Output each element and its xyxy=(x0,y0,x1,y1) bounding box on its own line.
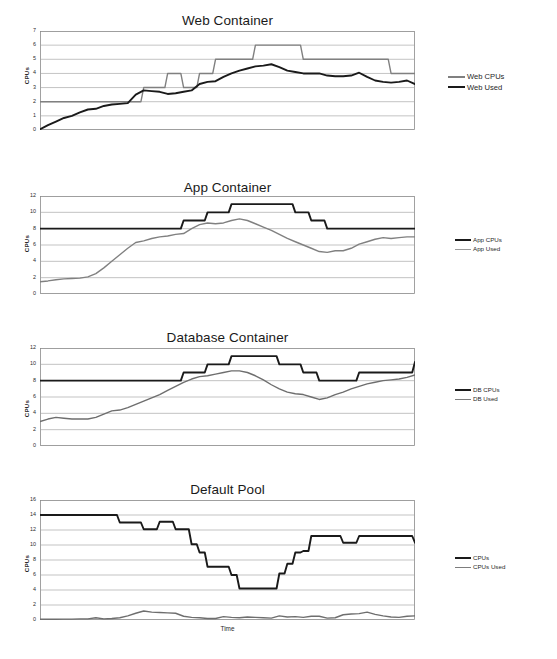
y-tick-label: 2 xyxy=(14,275,36,280)
plot-area-database-container xyxy=(40,348,415,446)
plot-area-app-container xyxy=(40,196,415,294)
y-tick-label: 10 xyxy=(14,209,36,214)
y-tick-label: 0 xyxy=(14,127,36,132)
plot-svg-web-container xyxy=(40,31,415,130)
legend-database-container: DB CPUs DB Used xyxy=(455,387,499,405)
chart-title-web-container: Web Container xyxy=(40,13,415,28)
y-tick-label: 4 xyxy=(14,587,36,592)
y-tick-label: 8 xyxy=(14,378,36,383)
y-tick-label: 12 xyxy=(14,345,36,350)
y-tick-label: 10 xyxy=(14,361,36,366)
chart-panel-web-container: Web Container CPUs 01234567 Web CPUs Web… xyxy=(0,0,557,165)
plot-frame xyxy=(41,32,415,130)
y-tick-label: 5 xyxy=(14,56,36,61)
y-tick-label: 1 xyxy=(14,113,36,118)
legend-swatch-db-used xyxy=(455,399,471,400)
legend-default-pool: CPUs CPUs Used xyxy=(455,555,505,573)
y-tick-label: 2 xyxy=(14,99,36,104)
legend-swatch-web-used xyxy=(448,86,465,88)
legend-swatch-app-used xyxy=(455,249,471,250)
y-tick-label: 4 xyxy=(14,410,36,415)
legend-item-app-cpus: App CPUs xyxy=(455,237,502,243)
y-tick-label: 6 xyxy=(14,242,36,247)
y-tick-label: 0 xyxy=(14,291,36,296)
legend-swatch-app-cpus xyxy=(455,239,471,241)
y-tick-label: 0 xyxy=(14,617,36,622)
y-tick-label: 4 xyxy=(14,70,36,75)
legend-item-web-used: Web Used xyxy=(448,84,504,92)
y-tick-label: 8 xyxy=(14,226,36,231)
legend-item-db-used: DB Used xyxy=(455,396,499,402)
legend-label-web-used: Web Used xyxy=(467,84,502,92)
figure-page: Web Container CPUs 01234567 Web CPUs Web… xyxy=(0,0,557,659)
y-tick-label: 7 xyxy=(14,28,36,33)
chart-panel-database-container: Database Container CPUs 024681012 DB CPU… xyxy=(0,330,557,495)
legend-item-app-used: App Used xyxy=(455,246,502,252)
y-tick-label: 6 xyxy=(14,572,36,577)
chart-panel-app-container: App Container CPUs 024681012 App CPUs Ap… xyxy=(0,165,557,330)
y-tick-label: 0 xyxy=(14,443,36,448)
y-tick-label: 8 xyxy=(14,557,36,562)
legend-label-app-used: App Used xyxy=(473,246,500,252)
y-tick-label: 12 xyxy=(14,193,36,198)
legend-swatch-web-cpus xyxy=(448,76,465,78)
chart-title-default-pool: Default Pool xyxy=(40,482,415,497)
legend-item-db-cpus: DB CPUs xyxy=(455,387,499,393)
legend-swatch-cpus xyxy=(455,557,471,559)
x-axis-title-default-pool: Time xyxy=(40,625,415,632)
y-tick-label: 10 xyxy=(14,542,36,547)
y-tick-label: 3 xyxy=(14,85,36,90)
y-tick-label: 14 xyxy=(14,512,36,517)
chart-panel-default-pool: Default Pool CPUs 0246810121416 Time CPU… xyxy=(0,475,557,659)
plot-area-default-pool xyxy=(40,500,415,620)
legend-item-cpus: CPUs xyxy=(455,555,505,561)
plot-svg-app-container xyxy=(40,196,415,294)
y-tick-label: 2 xyxy=(14,602,36,607)
legend-label-cpus-used: CPUs Used xyxy=(473,564,505,570)
y-axis-title-default-pool: CPUs xyxy=(23,544,30,584)
legend-swatch-db-cpus xyxy=(455,389,471,391)
legend-swatch-cpus-used xyxy=(455,567,471,568)
legend-item-cpus-used: CPUs Used xyxy=(455,564,505,570)
chart-title-app-container: App Container xyxy=(40,180,415,195)
y-tick-label: 6 xyxy=(14,42,36,47)
plot-area-web-container xyxy=(40,31,415,130)
legend-label-cpus: CPUs xyxy=(473,555,489,561)
plot-svg-database-container xyxy=(40,348,415,446)
y-tick-label: 4 xyxy=(14,258,36,263)
y-tick-label: 2 xyxy=(14,427,36,432)
legend-label-db-used: DB Used xyxy=(473,396,498,402)
legend-app-container: App CPUs App Used xyxy=(455,237,502,255)
y-tick-label: 6 xyxy=(14,394,36,399)
y-tick-label: 16 xyxy=(14,497,36,502)
y-tick-label: 12 xyxy=(14,527,36,532)
legend-item-web-cpus: Web CPUs xyxy=(448,73,504,81)
legend-label-db-cpus: DB CPUs xyxy=(473,387,499,393)
legend-label-app-cpus: App CPUs xyxy=(473,237,502,243)
chart-title-database-container: Database Container xyxy=(40,330,415,345)
legend-label-web-cpus: Web CPUs xyxy=(467,73,504,81)
legend-web-container: Web CPUs Web Used xyxy=(448,73,504,94)
plot-svg-default-pool xyxy=(40,500,415,620)
